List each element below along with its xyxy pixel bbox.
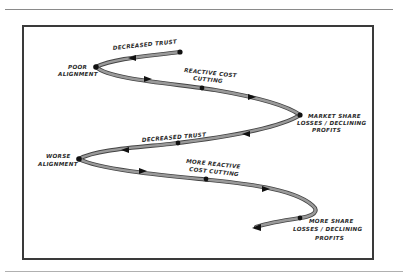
more-share-dot bbox=[298, 216, 303, 221]
start-node-dot bbox=[177, 49, 182, 54]
label-worse-alignment-line1: WORSE bbox=[46, 153, 71, 159]
label-market-share-line2: LOSSES / DECLINING bbox=[297, 120, 367, 126]
decreased-trust-2-dot bbox=[176, 141, 181, 146]
label-market-share-line1: MARKET SHARE bbox=[308, 113, 361, 119]
label-more-share-line1: MORE SHARE bbox=[309, 218, 354, 224]
poor-alignment-dot bbox=[93, 64, 99, 70]
label-worse-alignment-line2: ALIGNMENT bbox=[37, 161, 79, 167]
label-decreased-trust: DECREASED TRUST bbox=[112, 38, 178, 51]
label-market-share-line3: PROFITS bbox=[312, 127, 341, 133]
more-reactive-dot bbox=[204, 177, 209, 182]
spiral-diagram: DECREASED TRUST POOR ALIGNMENT REACTIVE … bbox=[0, 0, 403, 275]
market-share-dot bbox=[297, 112, 302, 117]
label-poor-alignment-line2: ALIGNMENT bbox=[57, 71, 99, 77]
label-more-share-line2: LOSSES / DECLINING bbox=[293, 226, 363, 232]
reactive-cost-dot bbox=[200, 86, 205, 91]
label-poor-alignment-line1: POOR bbox=[68, 64, 87, 70]
label-more-share-line3: PROFITS bbox=[315, 235, 344, 241]
